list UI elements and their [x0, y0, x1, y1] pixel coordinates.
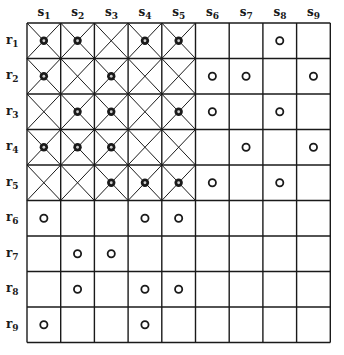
ring-mark-icon — [209, 108, 216, 115]
ring-mark-icon — [141, 286, 148, 293]
ring-mark-icon — [74, 286, 81, 293]
dotted-mark-center — [177, 181, 180, 184]
dotted-mark-center — [42, 75, 45, 78]
dotted-mark-center — [42, 146, 45, 149]
dotted-mark-center — [76, 110, 79, 113]
grid-diagram: s1s2s3s4s5s6s7s8s9 r1r2r3r4r5r6r7r8r9 — [0, 0, 344, 355]
ring-mark-icon — [175, 215, 182, 222]
dotted-mark-center — [177, 110, 180, 113]
dotted-mark-center — [110, 110, 113, 113]
ring-mark-icon — [276, 108, 283, 115]
dotted-mark-center — [110, 146, 113, 149]
ring-mark-icon — [40, 215, 47, 222]
dotted-mark-center — [144, 39, 147, 42]
dotted-mark-center — [42, 39, 45, 42]
ring-mark-icon — [310, 144, 317, 151]
ring-mark-icon — [242, 144, 249, 151]
ring-mark-icon — [74, 250, 81, 257]
ring-mark-icon — [209, 179, 216, 186]
ring-mark-icon — [141, 321, 148, 328]
ring-mark-icon — [175, 286, 182, 293]
ring-mark-icon — [310, 73, 317, 80]
dotted-mark-center — [110, 181, 113, 184]
dotted-mark-center — [76, 146, 79, 149]
ring-mark-icon — [242, 73, 249, 80]
ring-mark-icon — [276, 179, 283, 186]
dotted-mark-center — [110, 75, 113, 78]
dotted-mark-center — [177, 39, 180, 42]
ring-mark-icon — [40, 321, 47, 328]
ring-mark-icon — [108, 250, 115, 257]
ring-mark-icon — [276, 37, 283, 44]
dotted-mark-center — [76, 39, 79, 42]
dotted-mark-center — [144, 181, 147, 184]
ring-mark-icon — [141, 215, 148, 222]
grid-canvas — [0, 0, 344, 355]
ring-mark-icon — [209, 73, 216, 80]
